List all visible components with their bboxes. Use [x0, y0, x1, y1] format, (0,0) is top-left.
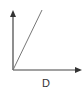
x-axis-arrow-icon: [75, 67, 82, 73]
x-axis-label: D: [42, 78, 50, 89]
y-axis-arrow-icon: [10, 10, 16, 17]
data-line: [13, 10, 42, 70]
